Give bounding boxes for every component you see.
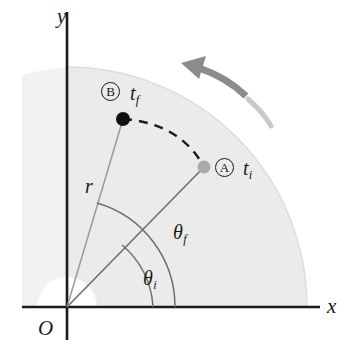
origin-label-text: O [38,316,53,340]
y-axis-label-text: y [57,4,66,28]
x-axis-label: x [327,296,336,317]
time-final-label: tf [130,83,139,106]
point-a-dot [198,161,211,174]
theta-initial-label-subscript: i [153,278,156,292]
radius-label-text: r [85,175,93,197]
point-a-tag-letter: A [220,160,229,176]
theta-initial-label-text: θ [143,267,153,289]
time-initial-label: ti [243,158,252,181]
rotation-arrow-head [181,56,206,79]
theta-initial-label: θi [143,268,157,291]
diagram-canvas [0,0,358,359]
point-b-tag: B [101,82,120,101]
y-axis-label: y [57,6,66,27]
theta-final-label: θf [173,222,187,245]
theta-final-label-text: θ [173,221,183,243]
rotation-arrow-tail [248,99,271,126]
disc-left-shadow [22,67,67,307]
physics-diagram-figure: B A y x O r tf ti θf θi [0,0,358,359]
time-initial-label-text: t [243,157,249,179]
x-axis-label-text: x [327,294,336,318]
origin-label: O [38,318,53,339]
rotation-arrow-shaft [199,68,246,96]
point-b-tag-letter: B [106,84,115,100]
time-final-label-subscript: f [136,93,139,107]
time-final-label-text: t [130,82,136,104]
time-initial-label-subscript: i [249,168,252,182]
point-b-dot [116,112,130,126]
rotating-disc [22,67,307,307]
point-a-tag: A [215,158,234,177]
radius-label: r [85,176,93,196]
theta-final-label-subscript: f [183,232,186,246]
